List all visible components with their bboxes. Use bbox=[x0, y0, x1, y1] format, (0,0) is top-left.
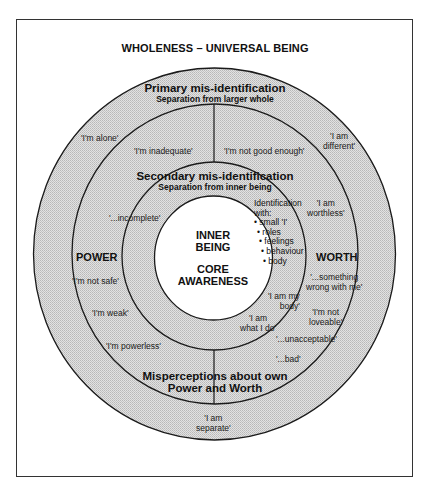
belief-separate: 'I am separate' bbox=[196, 413, 231, 433]
belief-not-loveable-line1: 'I'm not bbox=[309, 307, 342, 317]
belief-my-body-line1: 'I am my bbox=[268, 291, 300, 301]
belief-incomplete: '...incomplete' bbox=[109, 213, 160, 223]
belief-something-wrong-line2: wrong with me' bbox=[306, 282, 362, 292]
belief-my-body: 'I am my body' bbox=[268, 291, 300, 311]
belief-alone: 'I'm alone' bbox=[81, 133, 118, 143]
primary-subheading: Separation from larger whole bbox=[115, 94, 315, 104]
secondary-heading: Secondary mis-identification bbox=[115, 170, 315, 182]
misperceptions-heading-line1: Misperceptions about own bbox=[115, 370, 315, 382]
belief-different-line1: 'I am bbox=[323, 131, 355, 141]
belief-not-safe: 'I'm not safe' bbox=[72, 276, 119, 286]
power-label: POWER bbox=[76, 251, 118, 263]
core-inner-being: INNER BEING bbox=[163, 229, 263, 253]
worth-label: WORTH bbox=[316, 251, 358, 263]
belief-something-wrong-line1: '...something bbox=[306, 272, 362, 282]
belief-what-i-do-line1: 'I am bbox=[240, 313, 276, 323]
core-line-core: CORE bbox=[163, 263, 263, 275]
core-line-awareness: AWARENESS bbox=[163, 275, 263, 287]
belief-weak: 'I'm weak' bbox=[92, 308, 129, 318]
primary-heading: Primary mis-identification bbox=[115, 82, 315, 94]
belief-different-line2: different' bbox=[323, 141, 355, 151]
belief-powerless: 'I'm powerless' bbox=[106, 341, 161, 351]
belief-worthless-line2: worthless' bbox=[307, 208, 345, 218]
belief-inadequate: 'I'm inadequate' bbox=[134, 146, 193, 156]
core-line-being: BEING bbox=[163, 241, 263, 253]
core-line-inner: INNER bbox=[163, 229, 263, 241]
diagram-title: WHOLENESS – UNIVERSAL BEING bbox=[0, 42, 430, 54]
belief-worthless: 'I am worthless' bbox=[307, 198, 345, 218]
identification-item: • body bbox=[254, 257, 304, 267]
secondary-heading-block: Secondary mis-identification Separation … bbox=[115, 170, 315, 192]
misperceptions-heading-block: Misperceptions about own Power and Worth bbox=[115, 370, 315, 394]
belief-not-loveable-line2: loveable' bbox=[309, 317, 342, 327]
identification-list: Identification with: • small 'I' • roles… bbox=[254, 199, 304, 266]
belief-my-body-line2: body' bbox=[268, 301, 300, 311]
belief-what-i-do: 'I am what I do' bbox=[240, 313, 276, 333]
belief-worthless-line1: 'I am bbox=[307, 198, 345, 208]
belief-separate-line1: 'I am bbox=[196, 413, 231, 423]
belief-something-wrong: '...something wrong with me' bbox=[306, 272, 362, 292]
primary-heading-block: Primary mis-identification Separation fr… bbox=[115, 82, 315, 104]
belief-bad: '...bad' bbox=[276, 354, 301, 364]
secondary-subheading: Separation from inner being bbox=[115, 182, 315, 192]
belief-different: 'I am different' bbox=[323, 131, 355, 151]
belief-not-good-enough: 'I'm not good enough' bbox=[224, 146, 304, 156]
belief-not-loveable: 'I'm not loveable' bbox=[309, 307, 342, 327]
belief-separate-line2: separate' bbox=[196, 423, 231, 433]
belief-unacceptable: '...unacceptable' bbox=[276, 334, 337, 344]
core-awareness: CORE AWARENESS bbox=[163, 263, 263, 287]
belief-what-i-do-line2: what I do' bbox=[240, 323, 276, 333]
misperceptions-heading-line2: Power and Worth bbox=[115, 382, 315, 394]
